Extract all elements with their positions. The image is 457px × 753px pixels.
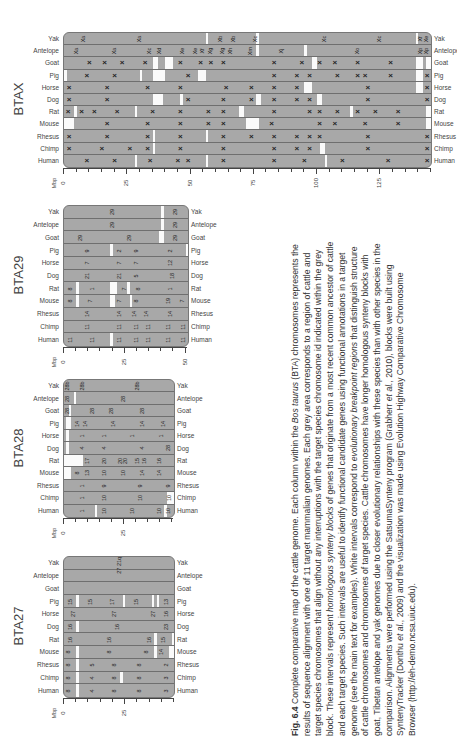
x-marker: × <box>272 72 277 80</box>
block-chromosome-label: 10 <box>157 508 163 514</box>
species-label-left: Rhesus <box>9 132 59 139</box>
block-chromosome-label: 28 <box>109 408 115 414</box>
synteny-row: 27272716 <box>64 608 174 621</box>
species-label-left: Yak <box>9 559 59 566</box>
x-marker: × <box>332 59 337 67</box>
x-marker: × <box>150 108 155 116</box>
synteny-row: 2121518 <box>64 270 188 283</box>
species-label-right: Mouse <box>177 469 197 476</box>
breakpoint-gap <box>416 82 424 93</box>
block-chromosome-label: 28 <box>65 408 71 414</box>
x-marker: × <box>386 157 391 165</box>
block-chromosome-label: 29 <box>110 222 116 228</box>
axis-tick <box>148 347 149 351</box>
species-label-right: Horse <box>177 610 194 617</box>
breakpoint-gap <box>135 155 138 167</box>
species-label-left: Antelope <box>9 47 59 54</box>
species-label-right: Antelope <box>177 572 203 579</box>
block-chromosome-label: 11 <box>117 337 123 343</box>
axis-tick <box>112 698 113 702</box>
block-chromosome-label: 11 <box>86 324 92 330</box>
synteny-row: 17202020151616 <box>64 455 174 467</box>
species-label-left: Chimp <box>9 144 59 151</box>
breakpoint-gap <box>153 70 166 81</box>
breakpoint-gap <box>206 130 209 141</box>
x-marker: × <box>105 120 110 128</box>
block-chromosome-label: 10 <box>131 508 137 514</box>
block-chromosome-label: 14 <box>111 421 117 427</box>
block-chromosome-label: 8 <box>113 664 119 667</box>
x-marker: × <box>272 133 277 141</box>
x-axis <box>63 518 173 519</box>
x-marker: × <box>67 133 72 141</box>
species-label-right: Chimp <box>177 494 196 501</box>
axis-tick <box>63 518 64 524</box>
synteny-row: 111111111111 <box>64 321 188 334</box>
block-chromosome-label: 2 <box>117 249 123 252</box>
breakpoint-gap <box>169 646 174 658</box>
x-marker: × <box>363 120 368 128</box>
species-label-left: Horse <box>9 259 59 266</box>
block-chromosome-label: 14 <box>83 421 89 427</box>
block-chromosome-label: 28 <box>65 396 71 402</box>
block-chromosome-label: 11 <box>181 324 187 330</box>
breakpoint-gap <box>256 45 259 56</box>
block-chromosome-label: 10 <box>167 495 173 501</box>
x-marker: × <box>178 145 183 153</box>
axis-tick <box>124 347 125 353</box>
x-marker: × <box>425 157 430 165</box>
block-chromosome-label: 15 <box>135 458 141 464</box>
axis-tick <box>87 698 88 702</box>
block-chromosome-label: 3 <box>164 689 170 692</box>
breakpoint-gap <box>76 282 78 294</box>
breakpoint-gap <box>95 505 97 517</box>
breakpoint-gap <box>304 45 307 56</box>
synteny-row: 77712 <box>64 257 188 270</box>
axis-tick <box>101 168 102 172</box>
block-chromosome-label: 7 <box>180 300 186 303</box>
species-label-right: Pig <box>191 246 200 253</box>
synteny-row <box>64 582 174 595</box>
species-label-right: Yak <box>434 35 445 42</box>
species-label-right: Antelope <box>191 221 217 228</box>
synteny-row: 1111 <box>64 430 174 442</box>
block-chromosome-label: Xa <box>112 48 118 55</box>
axis-tick <box>253 168 254 174</box>
block-chromosome-label: Xc <box>322 36 328 42</box>
x-marker: × <box>272 157 277 165</box>
breakpoint-gap <box>140 70 143 81</box>
x-marker: × <box>221 120 226 128</box>
breakpoint-gap <box>120 672 122 684</box>
species-label-left: Yak <box>9 35 59 42</box>
x-marker: × <box>208 59 213 67</box>
block-chromosome-label: Xb <box>218 36 224 43</box>
species-label-right: Antelope <box>177 394 203 401</box>
x-marker: × <box>67 145 72 153</box>
axis-tick <box>379 168 380 174</box>
block-chromosome-label: 8 <box>69 300 75 303</box>
block-chromosome-label: 14 <box>117 311 123 317</box>
species-label-right: Dog <box>177 623 189 630</box>
block-chromosome-label: 27 <box>113 611 119 617</box>
block-chromosome-label: 28 <box>121 396 127 402</box>
x-marker: × <box>425 72 430 80</box>
block-chromosome-label: 21 <box>117 273 123 279</box>
breakpoint-gap <box>246 118 259 129</box>
block-chromosome-label: 1 <box>80 497 86 500</box>
block-chromosome-label: 17 <box>110 598 116 604</box>
x-marker: × <box>272 84 277 92</box>
x-marker: × <box>105 84 110 92</box>
x-marker: × <box>396 108 401 116</box>
species-label-right: Chimp <box>177 673 196 680</box>
breakpoint-gap <box>76 646 78 658</box>
axis-tick <box>63 168 64 174</box>
axis-tick <box>430 168 431 172</box>
x-marker: × <box>295 145 300 153</box>
species-label-left: Rat <box>9 456 59 463</box>
breakpoint-gap <box>161 219 163 231</box>
block-chromosome-label: 29 <box>127 235 133 241</box>
species-label-left: Rhesus <box>9 310 59 317</box>
species-label-left: Pig <box>9 419 59 426</box>
axis-tick-label: 100 <box>313 178 319 188</box>
block-chromosome-label: 16 <box>143 458 149 464</box>
